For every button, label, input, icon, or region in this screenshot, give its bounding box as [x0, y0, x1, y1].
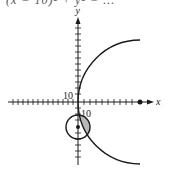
x-axis-arrow-icon: [147, 100, 154, 105]
small-circle-center-dot: [76, 125, 80, 129]
y-tick-label-10: 10: [63, 90, 73, 101]
y-axis-label: y: [75, 5, 81, 16]
circle-graph: x y 10 10: [0, 0, 169, 177]
large-circle-center-dot: [138, 100, 143, 105]
y-axis-arrow-icon: [76, 17, 81, 24]
x-axis-label: x: [155, 96, 161, 107]
x-axis: [8, 99, 150, 105]
